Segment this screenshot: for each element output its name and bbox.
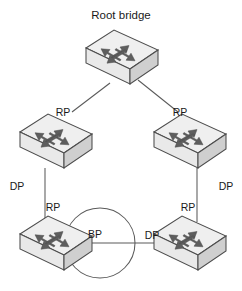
link-root-to-upper-left [72, 83, 110, 112]
network-switch-icon [154, 114, 226, 168]
lower-right-switch[interactable] [154, 216, 226, 270]
network-switch-icon [20, 114, 92, 168]
port-label-bp-lower-left: BP [88, 228, 102, 240]
upper-right-switch[interactable] [154, 114, 226, 168]
port-label-dp-left: DP [10, 180, 25, 192]
port-label-rp-lower-left: RP [46, 201, 61, 213]
port-label-dp-bottom: DP [145, 229, 160, 241]
port-label-dp-right: DP [219, 180, 234, 192]
network-switch-icon [20, 216, 92, 270]
stp-topology-diagram: Root bridge RP RP DP DP RP RP BP DP [0, 0, 242, 291]
lower-left-switch[interactable] [20, 216, 92, 270]
diagram-canvas: Root bridge RP RP DP DP RP RP BP DP [0, 0, 242, 291]
root-bridge-switch[interactable] [86, 30, 158, 84]
port-label-rp-lower-right: RP [181, 201, 196, 213]
port-label-rp-upper-left: RP [56, 106, 71, 118]
port-label-rp-upper-right: RP [173, 106, 188, 118]
network-switch-icon [154, 216, 226, 270]
upper-left-switch[interactable] [20, 114, 92, 168]
root-bridge-title: Root bridge [91, 9, 150, 21]
network-switch-icon [86, 30, 158, 84]
